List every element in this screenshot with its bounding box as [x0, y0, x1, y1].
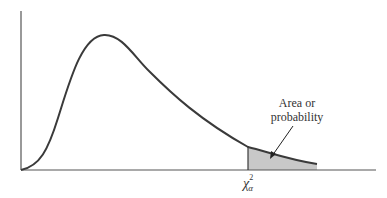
critical-value-label: χ2α: [243, 175, 258, 193]
annotation-line1: Area or: [262, 96, 332, 110]
annotation-line2: probability: [262, 110, 332, 124]
annotation-label: Area or probability: [262, 96, 332, 124]
annotation-arrow: [272, 126, 293, 156]
